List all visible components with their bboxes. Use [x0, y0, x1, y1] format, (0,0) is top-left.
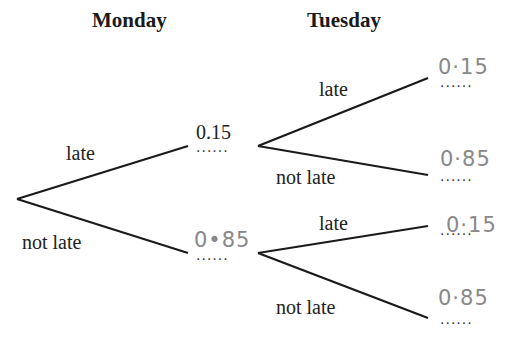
branch-label-tuesday-late: late	[319, 78, 348, 101]
answer-dots: ......	[440, 222, 473, 238]
answer-dots: ......	[196, 247, 229, 263]
answer-dots: ......	[440, 74, 473, 90]
branch-label-tuesday-not-late: not late	[276, 166, 335, 189]
answer-dots: ......	[440, 168, 473, 184]
branch-label-tuesday-not-late: not late	[276, 296, 335, 319]
answer-dots: ......	[440, 311, 473, 327]
branch-label-tuesday-late: late	[319, 212, 348, 235]
answer-dots: ......	[196, 139, 229, 155]
branch-label-monday-not-late: not late	[22, 231, 81, 254]
prob-tuesday-not-late-not-late: 0·85	[438, 286, 489, 310]
branch-label-monday-late: late	[66, 142, 95, 165]
